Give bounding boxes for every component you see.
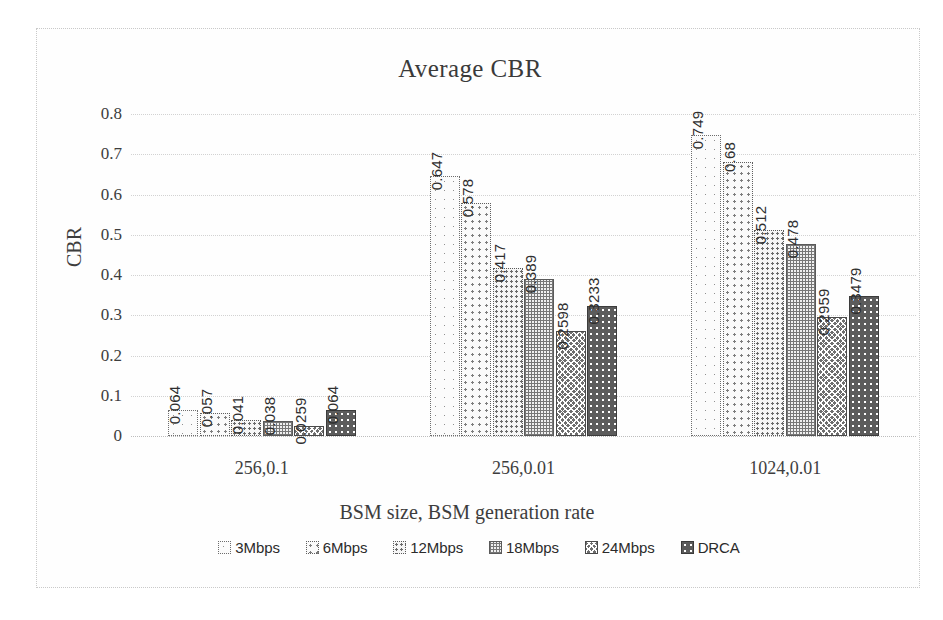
- y-axis-tick-label: 0.4: [101, 265, 122, 285]
- bar-value-label: 0.2959: [815, 288, 832, 335]
- bar-6mbps[interactable]: 0.68: [723, 162, 753, 436]
- bar-rect[interactable]: [524, 279, 554, 436]
- bar-value-label: 0.2598: [554, 303, 571, 350]
- y-axis-tick-label: 0.5: [101, 225, 122, 245]
- bar-drca[interactable]: 0.3479: [849, 296, 879, 436]
- bar-12mbps[interactable]: 0.417: [493, 268, 523, 436]
- legend-item-drca[interactable]: DRCA: [681, 539, 740, 556]
- legend-label: 18Mbps: [506, 539, 559, 556]
- bar-18mbps[interactable]: 0.478: [786, 244, 816, 436]
- x-axis-tick-label: 1024,0.01: [749, 458, 821, 479]
- bar-value-label: 0.0259: [292, 397, 309, 444]
- y-axis-tick-label: 0.3: [101, 305, 122, 325]
- bar-12mbps[interactable]: 0.041: [231, 420, 261, 437]
- bar-value-label: 0.064: [324, 386, 341, 425]
- bar-3mbps[interactable]: 0.749: [691, 135, 721, 436]
- bar-3mbps[interactable]: 0.064: [168, 410, 198, 436]
- bar-rect[interactable]: [849, 296, 879, 436]
- bar-value-label: 0.057: [198, 389, 215, 428]
- legend-item-3mbps[interactable]: 3Mbps: [218, 539, 280, 556]
- plot-area: 00.10.20.30.40.50.60.70.80.0640.0570.041…: [131, 114, 916, 436]
- chart-title: Average CBR: [37, 55, 921, 83]
- y-axis-tick-label: 0.6: [101, 185, 122, 205]
- bar-value-label: 0.417: [491, 244, 508, 283]
- x-axis-tick-label: 256,0.1: [235, 458, 289, 479]
- bar-24mbps[interactable]: 0.0259: [294, 426, 324, 436]
- y-axis-tick-label: 0.8: [101, 104, 122, 124]
- bar-drca[interactable]: 0.064: [326, 410, 356, 436]
- pattern-dark-dots-icon: [681, 541, 694, 554]
- bar-group: 0.7490.680.5120.4780.29590.34791024,0.01: [654, 114, 916, 436]
- bar-rect[interactable]: [493, 268, 523, 436]
- legend-label: 24Mbps: [602, 539, 655, 556]
- bar-value-label: 0.064: [166, 386, 183, 425]
- y-axis-tick-label: 0.7: [101, 144, 122, 164]
- bar-24mbps[interactable]: 0.2598: [556, 331, 586, 436]
- y-axis-title: CBR: [63, 227, 86, 267]
- pattern-sparse-dots-icon: [218, 541, 231, 554]
- bar-18mbps[interactable]: 0.038: [263, 421, 293, 436]
- legend-item-12mbps[interactable]: 12Mbps: [393, 539, 463, 556]
- legend-label: 6Mbps: [323, 539, 368, 556]
- legend-item-18mbps[interactable]: 18Mbps: [489, 539, 559, 556]
- bar-drca[interactable]: 0.3233: [587, 306, 617, 436]
- x-axis-title: BSM size, BSM generation rate: [37, 501, 921, 524]
- bar-value-label: 0.578: [459, 179, 476, 218]
- bar-value-label: 0.512: [752, 206, 769, 245]
- chart-frame: Average CBR CBR 00.10.20.30.40.50.60.70.…: [36, 28, 920, 588]
- bar-rect[interactable]: [430, 176, 460, 436]
- gridline: [131, 436, 916, 437]
- bar-value-label: 0.041: [229, 395, 246, 434]
- bar-value-label: 0.647: [428, 151, 445, 190]
- bar-value-label: 0.749: [689, 110, 706, 149]
- bar-group: 0.6470.5780.4170.3890.25980.3233256,0.01: [393, 114, 655, 436]
- bar-6mbps[interactable]: 0.057: [200, 413, 230, 436]
- y-axis-tick-label: 0: [114, 426, 123, 446]
- pattern-crosshatch-icon: [585, 541, 598, 554]
- pattern-fine-grid-icon: [489, 541, 502, 554]
- bar-rect[interactable]: [723, 162, 753, 436]
- bar-rect[interactable]: [587, 306, 617, 436]
- legend-label: 3Mbps: [235, 539, 280, 556]
- bar-rect[interactable]: [461, 203, 491, 436]
- y-axis-tick-label: 0.1: [101, 386, 122, 406]
- bar-24mbps[interactable]: 0.2959: [817, 317, 847, 436]
- bar-rect[interactable]: [786, 244, 816, 436]
- bar-group: 0.0640.0570.0410.0380.02590.064256,0.1: [131, 114, 393, 436]
- bar-value-label: 0.3233: [585, 277, 602, 324]
- legend-item-24mbps[interactable]: 24Mbps: [585, 539, 655, 556]
- legend-item-6mbps[interactable]: 6Mbps: [306, 539, 368, 556]
- bar-rect[interactable]: [754, 230, 784, 436]
- bar-18mbps[interactable]: 0.389: [524, 279, 554, 436]
- y-axis-tick-label: 0.2: [101, 346, 122, 366]
- bar-12mbps[interactable]: 0.512: [754, 230, 784, 436]
- bar-value-label: 0.3479: [847, 267, 864, 314]
- bar-value-label: 0.389: [522, 255, 539, 294]
- bar-value-label: 0.038: [261, 396, 278, 435]
- pattern-dense-dots-icon: [393, 541, 406, 554]
- bar-6mbps[interactable]: 0.578: [461, 203, 491, 436]
- legend-label: 12Mbps: [410, 539, 463, 556]
- bar-3mbps[interactable]: 0.647: [430, 176, 460, 436]
- chart-legend: 3Mbps6Mbps12Mbps18Mbps24MbpsDRCA: [37, 539, 921, 556]
- pattern-medium-dots-icon: [306, 541, 319, 554]
- legend-label: DRCA: [698, 539, 740, 556]
- x-axis-tick-label: 256,0.01: [492, 458, 555, 479]
- bar-value-label: 0.478: [784, 219, 801, 258]
- bar-value-label: 0.68: [721, 142, 738, 172]
- bar-rect[interactable]: [691, 135, 721, 436]
